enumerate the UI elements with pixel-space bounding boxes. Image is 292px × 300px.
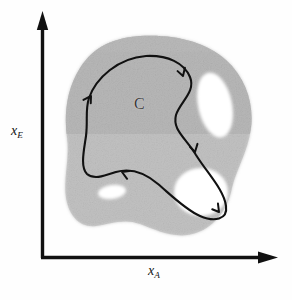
x-axis-label-subscript: A bbox=[154, 270, 160, 280]
y-axis-arrow-icon bbox=[37, 11, 48, 30]
x-axis-arrow-icon bbox=[258, 252, 278, 264]
y-axis-label-subscript: E bbox=[17, 130, 23, 140]
region-c-shape bbox=[50, 28, 270, 243]
hole-lower-right bbox=[174, 168, 228, 216]
region-label: C bbox=[134, 96, 145, 112]
y-axis-label: xE bbox=[11, 124, 23, 140]
x-axis-label: xA bbox=[148, 264, 160, 280]
figure-canvas: xE xA C bbox=[0, 0, 292, 300]
figure-drawing bbox=[0, 0, 292, 300]
